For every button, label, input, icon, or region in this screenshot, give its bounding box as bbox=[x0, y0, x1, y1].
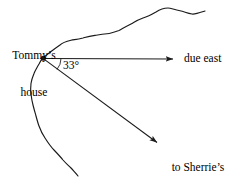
label-to-sherries-house-line1: to Sherrie’s bbox=[163, 161, 233, 173]
label-tommys-house-line1: Tommy’s bbox=[4, 49, 64, 61]
label-to-sherries-house: to Sherrie’s house bbox=[163, 136, 233, 178]
bearing-diagram: Tommy’s house 33° due east to Sherrie’s … bbox=[0, 0, 235, 178]
label-tommys-house: Tommy’s house bbox=[4, 24, 64, 123]
label-angle-measure: 33° bbox=[63, 59, 79, 71]
label-due-east: due east bbox=[184, 52, 221, 64]
label-tommys-house-line2: house bbox=[4, 86, 64, 98]
